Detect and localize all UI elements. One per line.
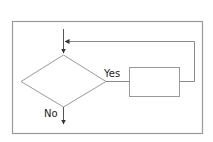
flowchart-diagram: Yes No (0, 0, 213, 142)
process-box (130, 68, 180, 97)
no-label: No (44, 108, 58, 119)
yes-label: Yes (103, 68, 120, 79)
